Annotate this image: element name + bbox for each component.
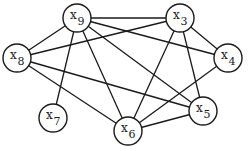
node-subscript: 4 [229, 55, 236, 68]
graph-canvas: x9x3x8x4x7x5x6 [0, 0, 249, 151]
edge-x8-x5 [17, 58, 203, 111]
node-subscript: 9 [78, 15, 85, 28]
node-label: x [121, 121, 128, 135]
node-x4: x4 [214, 44, 242, 72]
node-x5: x5 [189, 97, 217, 125]
node-x3: x3 [166, 4, 194, 32]
node-label: x [10, 48, 17, 62]
node-subscript: 5 [204, 108, 211, 121]
node-label: x [196, 101, 203, 115]
node-label: x [221, 48, 228, 62]
node-subscript: 7 [54, 115, 61, 128]
node-x7: x7 [39, 104, 67, 132]
edge-x9-x7 [53, 18, 77, 118]
node-x9: x9 [63, 4, 91, 32]
node-label: x [173, 8, 180, 22]
edge-x3-x6 [128, 18, 180, 131]
node-x8: x8 [3, 44, 31, 72]
node-label: x [70, 8, 77, 22]
node-x6: x6 [114, 117, 142, 145]
node-subscript: 3 [181, 15, 188, 28]
node-subscript: 6 [129, 128, 136, 141]
node-subscript: 8 [18, 55, 25, 68]
node-label: x [46, 108, 53, 122]
